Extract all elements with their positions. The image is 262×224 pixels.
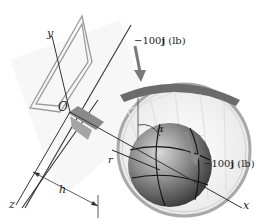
y-axis-label: y <box>47 28 53 39</box>
force-label-top: −100j (lb) <box>134 36 186 46</box>
basketball-hoop-diagram <box>0 0 262 224</box>
x-axis-label: x <box>243 200 249 211</box>
force-top-unit: (lb) <box>165 35 186 46</box>
force-label-right: −100j (lb) <box>203 159 255 169</box>
force-right-unit: (lb) <box>234 158 255 169</box>
force-top-magnitude: −100 <box>134 35 161 46</box>
alpha-angle-label: α <box>157 124 164 134</box>
z-axis-label: z <box>9 199 15 210</box>
basketball <box>128 123 212 207</box>
force-right-magnitude: −100 <box>203 158 230 169</box>
h-dimension-label: h <box>59 184 66 195</box>
origin-label: O <box>58 101 68 113</box>
r-vector-label: r <box>108 155 113 165</box>
